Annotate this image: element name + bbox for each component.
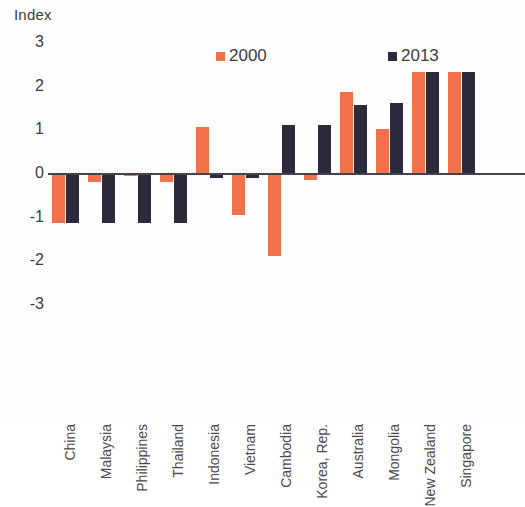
y-axis: 3210-1-2-3 bbox=[0, 0, 44, 427]
zero-baseline bbox=[48, 173, 525, 175]
x-axis-tick-label: Malaysia bbox=[99, 424, 113, 479]
bar-china-2000 bbox=[52, 173, 65, 223]
plot-area bbox=[48, 0, 525, 310]
bar-singapore-2000 bbox=[448, 72, 461, 173]
x-axis-tick-label: China bbox=[63, 424, 77, 461]
bar-indonesia-2000 bbox=[196, 127, 209, 173]
bar-china-2013 bbox=[66, 173, 79, 223]
bar-newzealand-2000 bbox=[412, 72, 425, 173]
bar-newzealand-2013 bbox=[426, 72, 439, 173]
y-axis-tick-label: 1 bbox=[2, 121, 44, 137]
bar-korearep-2013 bbox=[318, 125, 331, 173]
x-axis-tick-label: Mongolia bbox=[387, 424, 401, 481]
bar-philippines-2013 bbox=[138, 173, 151, 223]
bar-cambodia-2013 bbox=[282, 125, 295, 173]
bar-vietnam-2000 bbox=[232, 173, 245, 215]
bar-mongolia-2013 bbox=[390, 103, 403, 173]
x-axis-tick-label: Vietnam bbox=[243, 424, 257, 475]
bar-australia-2013 bbox=[354, 105, 367, 173]
bar-singapore-2013 bbox=[462, 72, 475, 173]
y-axis-tick-label: -1 bbox=[2, 209, 44, 225]
x-axis-labels: ChinaMalaysiaPhilippinesThailandIndonesi… bbox=[48, 312, 525, 427]
bar-australia-2000 bbox=[340, 92, 353, 173]
x-axis-tick-label: Indonesia bbox=[207, 424, 221, 485]
bar-thailand-2013 bbox=[174, 173, 187, 223]
bar-mongolia-2000 bbox=[376, 129, 389, 173]
y-axis-tick-label: -3 bbox=[2, 296, 44, 312]
bar-malaysia-2013 bbox=[102, 173, 115, 223]
x-axis-tick-label: Thailand bbox=[171, 424, 185, 478]
y-axis-tick-label: 2 bbox=[2, 78, 44, 94]
x-axis-tick-label: Cambodia bbox=[279, 424, 293, 488]
x-axis-tick-label: New Zealand bbox=[423, 424, 437, 507]
y-axis-tick-label: 3 bbox=[2, 34, 44, 50]
x-axis-tick-label: Singapore bbox=[459, 424, 473, 488]
y-axis-tick-label: 0 bbox=[2, 165, 44, 181]
y-axis-tick-label: -2 bbox=[2, 252, 44, 268]
x-axis-tick-label: Philippines bbox=[135, 424, 149, 492]
x-axis-tick-label: Korea, Rep. bbox=[315, 424, 329, 499]
x-axis-tick-label: Australia bbox=[351, 424, 365, 478]
bar-cambodia-2000 bbox=[268, 173, 281, 256]
